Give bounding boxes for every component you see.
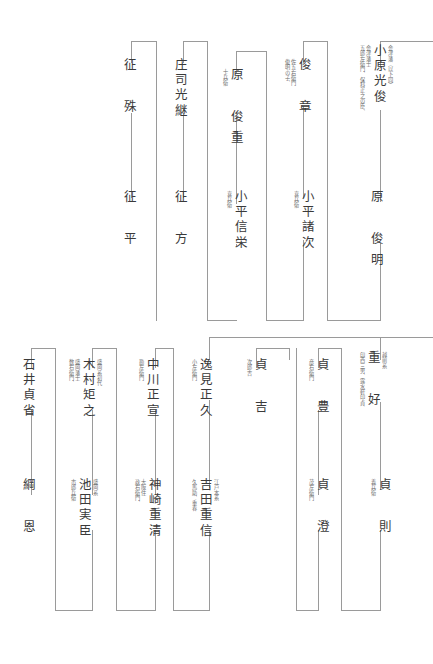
connector-top-t9-to-t10 (131, 113, 132, 198)
node-t4: 喜兵衛 小平諸次 (292, 190, 313, 251)
node-b2-note-left: 義兵衛 (369, 478, 376, 495)
connector-bottom-b9-down (155, 530, 156, 610)
node-b10: 数右衛門、 盛岡藩士 木村矩之 盛岡系初代 (67, 358, 102, 419)
node-b7-name: 吉田重信 (198, 478, 211, 539)
connector-top-t1-head (380, 41, 433, 42)
node-b4-note-left: 茂左衛門 (307, 478, 314, 500)
node-b12: 石井貞省 (21, 358, 34, 419)
connector-bottom-b3-head (318, 348, 342, 349)
connector-bottom-b9-bottom (116, 610, 156, 611)
node-b8: 勘左衛門 中川正宣 (137, 358, 158, 419)
node-t7: 庄司光継 (173, 58, 186, 119)
connector-bottom-b7-bottom (173, 610, 210, 611)
node-t1: 五郎左衛門、保科正之の臣、 会津藩士 小原光俊 会津藩（以下同） (358, 44, 393, 114)
connector-bottom-b5-head (256, 348, 289, 349)
node-t3: 俊明の子、 佐五右衛門 俊 章 (283, 58, 310, 121)
node-t8: 征 方 (173, 190, 186, 253)
node-t6-note-left: 喜兵衛 (225, 190, 232, 207)
node-t6-name: 小平信栄 (233, 190, 246, 251)
node-t1-name: 小原光俊 (372, 44, 385, 105)
connector-bottom-b10-rise (116, 348, 117, 611)
node-b1: 印西三男、露水軒印貞 重 好 越前系 (358, 351, 387, 414)
connector-bottom-trunk (209, 337, 433, 338)
connector-top-t5-rise (266, 51, 267, 321)
node-t9: 征 殊 (122, 58, 135, 121)
node-b9-name: 神崎重清 (147, 478, 160, 539)
node-t5-name: 原 俊重 (229, 68, 242, 152)
node-b10-note-left2: 盛岡藩士 (73, 358, 80, 380)
node-t8-name: 征 方 (173, 190, 186, 253)
node-t5-note-left: 十兵衛 (221, 68, 228, 85)
node-b1-name: 重 好 (366, 351, 379, 414)
connector-bottom-b8-head (155, 348, 174, 349)
node-t6: 喜兵衛 小平信栄 (225, 190, 246, 251)
connector-top-t5-head (236, 51, 267, 52)
connector-bottom-b8-rise (173, 348, 174, 611)
connector-bottom-b5-riser (289, 348, 290, 360)
connector-bottom-b12-rise (55, 348, 56, 611)
node-t10-name: 征 平 (122, 190, 135, 253)
connector-top-t7-head (183, 41, 208, 42)
node-b1-note-left: 印西三男、露水軒印貞 (358, 351, 365, 405)
node-t3-note-left2: 佐五右衛門 (289, 58, 296, 86)
node-b11: 市郎兵衛 池田実臣 盛岡系 (69, 478, 98, 539)
connector-bottom-b7-down (209, 530, 210, 610)
connector-bottom-b4-down (318, 530, 319, 610)
node-t4-note-left: 喜兵衛 (292, 190, 299, 207)
node-b11-name: 池田実臣 (77, 478, 90, 539)
node-b1-note-right: 越前系 (380, 351, 387, 368)
node-b5-name: 貞 吉 (253, 358, 266, 421)
node-b9-note-left2: 大阪住 (139, 478, 146, 495)
connector-bottom-b4-riser (296, 348, 297, 611)
connector-bottom-b2-bottom (341, 610, 381, 611)
connector-top-t4-bottom (266, 320, 304, 321)
node-b3-note-left: 彦右衛門 (307, 358, 314, 380)
connector-top-t9-rise (156, 41, 157, 321)
connector-bottom-b6-stem (209, 337, 210, 360)
connector-top-t4-down (303, 240, 304, 320)
node-t1-note-left2: 会津藩士 (364, 44, 371, 66)
node-b9: 政右衛門、 大阪住 神崎重清 (133, 478, 160, 539)
node-b10-note-right: 盛岡系初代 (95, 358, 102, 386)
node-b8-name: 中川正宣 (145, 358, 158, 419)
node-b8-note-left: 勘左衛門 (137, 358, 144, 380)
node-t9-name: 征 殊 (122, 58, 135, 121)
node-t1-note-right: 会津藩（以下同） (386, 44, 393, 87)
connector-bottom-b3-rise (341, 348, 342, 611)
node-t4-name: 小平諸次 (300, 190, 313, 251)
node-b7-note-right: 江戸本系 (212, 478, 219, 500)
node-b3-name: 貞 豊 (315, 358, 328, 421)
connector-bottom-b11-down (92, 530, 93, 610)
connector-top-t1-to-t2 (380, 110, 381, 202)
connector-bottom-b4-bottom (296, 610, 319, 611)
node-b6-note-left: 小左衛門 (190, 358, 197, 380)
connector-bottom-b10-head (92, 348, 117, 349)
node-t3-name: 俊 章 (297, 58, 310, 121)
connector-top-t7-to-t8 (183, 113, 184, 198)
node-b12-name: 石井貞省 (21, 358, 34, 419)
node-t2-name: 原 俊明 (369, 190, 382, 274)
node-t10: 征 平 (122, 190, 135, 253)
connector-bottom-b1-to-b2 (380, 402, 381, 490)
connector-bottom-b2-down (380, 530, 381, 610)
connector-top-t3-rise (327, 41, 328, 321)
node-b11-note-right: 盛岡系 (91, 478, 98, 495)
node-b13: 綱 恩 (21, 478, 34, 541)
connector-top-t2-bottom (327, 320, 381, 321)
node-b13-name: 綱 恩 (21, 478, 34, 541)
node-b4-name: 貞 澄 (315, 478, 328, 541)
node-b5-note-left: 次郎吉 (245, 358, 252, 375)
node-t2: 原 俊明 (369, 190, 382, 274)
node-b11-note-left: 市郎兵衛 (69, 478, 76, 500)
node-b7: 久馬助、重春 吉田重信 江戸本系 (190, 478, 219, 539)
connector-top-t7-bottom (207, 320, 237, 321)
connector-top-t7-rise (207, 41, 208, 321)
node-b7-note-left: 久馬助、重春 (190, 478, 197, 511)
connector-top-t9-head (131, 41, 156, 42)
genealogy-chart-canvas: 五郎左衛門、保科正之の臣、 会津藩士 小原光俊 会津藩（以下同） 原 俊明 俊明… (0, 0, 433, 664)
node-b10-name: 木村矩之 (81, 358, 94, 419)
node-b2: 義兵衛 貞 則 (369, 478, 390, 541)
node-t7-name: 庄司光継 (173, 58, 186, 119)
node-b3: 彦右衛門 貞 豊 (307, 358, 328, 421)
node-b5: 次郎吉 貞 吉 (245, 358, 266, 421)
